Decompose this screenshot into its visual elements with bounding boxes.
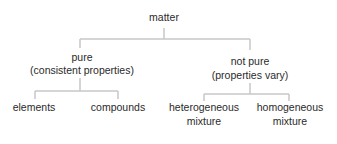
node-homogeneous: homogeneous [257,101,324,114]
classification-of-matter-diagram: matter pure (consistent properties) not … [0,0,337,144]
node-heterogeneous: heterogeneous [169,101,239,114]
node-elements: elements [13,101,56,114]
node-compounds: compounds [91,101,145,114]
node-pure-subtitle: (consistent properties) [30,64,134,77]
node-not-pure: not pure [231,55,270,68]
node-homogeneous-subtitle: mixture [273,115,307,128]
node-matter: matter [149,11,179,24]
node-pure: pure [71,51,92,64]
node-not-pure-subtitle: (properties vary) [212,69,288,82]
node-heterogeneous-subtitle: mixture [187,115,221,128]
